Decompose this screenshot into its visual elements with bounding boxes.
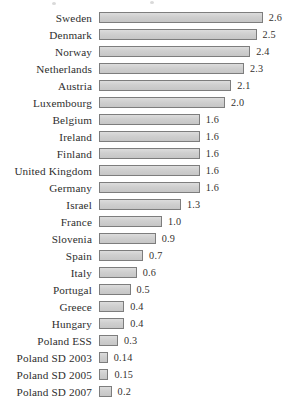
category-label: Austria <box>0 80 99 92</box>
chart-row: Greece0.4 <box>0 298 307 315</box>
chart-row: Hungary0.4 <box>0 315 307 332</box>
chart-row: Belgium1.6 <box>0 111 307 128</box>
bar <box>99 46 250 57</box>
category-label: Belgium <box>0 114 99 126</box>
bar-zone: 1.6 <box>99 111 307 128</box>
bar-value-label: 0.3 <box>118 335 137 346</box>
chart-row: Poland SD 20070.2 <box>0 383 307 400</box>
bar <box>99 335 118 346</box>
page-scan-artifacts <box>0 0 307 9</box>
bar-zone: 0.7 <box>99 247 307 264</box>
bar-value-label: 2.1 <box>231 80 250 91</box>
scan-speck-icon <box>52 2 56 5</box>
bar-value-label: 0.4 <box>124 318 143 329</box>
bar-value-label: 0.2 <box>112 386 131 397</box>
bar-value-label: 2.3 <box>244 63 263 74</box>
bar-value-label: 0.6 <box>137 267 156 278</box>
chart-row: Austria2.1 <box>0 77 307 94</box>
category-label: Ireland <box>0 131 99 143</box>
bar-zone: 1.6 <box>99 128 307 145</box>
category-label: Portugal <box>0 284 99 296</box>
bar-zone: 2.0 <box>99 94 307 111</box>
bar <box>99 352 108 363</box>
bar-value-label: 1.0 <box>162 216 181 227</box>
category-label: Slovenia <box>0 233 99 245</box>
category-label: Poland SD 2003 <box>0 352 99 364</box>
category-label: Poland SD 2005 <box>0 369 99 381</box>
bar-value-label: 1.6 <box>200 131 219 142</box>
category-label: United Kingdom <box>0 165 99 177</box>
bar-zone: 1.6 <box>99 179 307 196</box>
chart-row: France1.0 <box>0 213 307 230</box>
scan-speck-icon <box>150 1 154 4</box>
bar-value-label: 0.9 <box>156 233 175 244</box>
bar <box>99 29 257 40</box>
chart-row: Poland SD 20030.14 <box>0 349 307 366</box>
bar-value-label: 1.6 <box>200 182 219 193</box>
bar-zone: 0.4 <box>99 315 307 332</box>
bar-zone: 0.2 <box>99 383 307 400</box>
chart-row: Germany1.6 <box>0 179 307 196</box>
bar-value-label: 0.14 <box>108 352 133 363</box>
bar-value-label: 2.5 <box>257 29 276 40</box>
chart-row: Portugal0.5 <box>0 281 307 298</box>
category-label: Germany <box>0 182 99 194</box>
bar <box>99 148 200 159</box>
bar <box>99 131 200 142</box>
category-label: Denmark <box>0 29 99 41</box>
bar-value-label: 1.3 <box>181 199 200 210</box>
bar <box>99 233 156 244</box>
chart-row: Poland ESS0.3 <box>0 332 307 349</box>
chart-row: Ireland1.6 <box>0 128 307 145</box>
category-label: Hungary <box>0 318 99 330</box>
bar-value-label: 0.4 <box>124 301 143 312</box>
bar <box>99 182 200 193</box>
bar-value-label: 1.6 <box>200 114 219 125</box>
bar <box>99 114 200 125</box>
bar-zone: 0.5 <box>99 281 307 298</box>
category-label: Sweden <box>0 12 99 24</box>
chart-row: Norway2.4 <box>0 43 307 60</box>
bar <box>99 250 143 261</box>
bar-zone: 2.5 <box>99 26 307 43</box>
category-label: Netherlands <box>0 63 99 75</box>
chart-row: Denmark2.5 <box>0 26 307 43</box>
bar <box>99 369 108 380</box>
category-label: Luxembourg <box>0 97 99 109</box>
bar-zone: 0.14 <box>99 349 307 366</box>
category-label: France <box>0 216 99 228</box>
bar <box>99 216 162 227</box>
category-label: Israel <box>0 199 99 211</box>
bar-value-label: 0.15 <box>108 369 133 380</box>
chart-row: Luxembourg2.0 <box>0 94 307 111</box>
bar-zone: 0.15 <box>99 366 307 383</box>
chart-row: Netherlands2.3 <box>0 60 307 77</box>
bar-value-label: 2.6 <box>263 12 282 23</box>
chart-row: United Kingdom1.6 <box>0 162 307 179</box>
bar-value-label: 2.0 <box>225 97 244 108</box>
bar <box>99 12 263 23</box>
bar-zone: 0.4 <box>99 298 307 315</box>
bar-zone: 1.0 <box>99 213 307 230</box>
bar <box>99 284 131 295</box>
bar <box>99 80 231 91</box>
chart-row: Poland SD 20050.15 <box>0 366 307 383</box>
bar-value-label: 0.7 <box>143 250 162 261</box>
category-label: Finland <box>0 148 99 160</box>
chart-row: Finland1.6 <box>0 145 307 162</box>
bar <box>99 97 225 108</box>
chart-row: Italy0.6 <box>0 264 307 281</box>
bar-zone: 0.9 <box>99 230 307 247</box>
bar-zone: 2.6 <box>99 9 307 26</box>
bar <box>99 199 181 210</box>
bar-value-label: 1.6 <box>200 148 219 159</box>
category-label: Norway <box>0 46 99 58</box>
category-label: Italy <box>0 267 99 279</box>
chart-row: Slovenia0.9 <box>0 230 307 247</box>
category-label: Poland ESS <box>0 335 99 347</box>
chart-row: Sweden2.6 <box>0 9 307 26</box>
bar-zone: 1.6 <box>99 162 307 179</box>
bar <box>99 301 124 312</box>
bar-zone: 2.4 <box>99 43 307 60</box>
bar-zone: 0.6 <box>99 264 307 281</box>
